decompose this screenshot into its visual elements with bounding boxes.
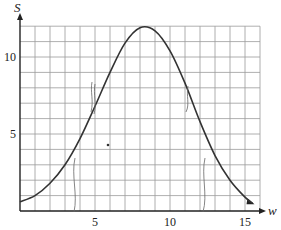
- chart: 51015510 S w: [0, 0, 281, 230]
- grid: [20, 26, 260, 211]
- y-axis-label: S: [14, 0, 21, 15]
- svg-text:15: 15: [239, 215, 251, 229]
- svg-text:5: 5: [92, 215, 98, 229]
- x-axis-label: w: [268, 203, 277, 218]
- axes: [17, 13, 266, 214]
- stray-dot: [107, 144, 110, 147]
- data-curve: [20, 27, 253, 204]
- svg-text:5: 5: [10, 127, 16, 141]
- svg-text:10: 10: [164, 215, 176, 229]
- tick-labels: 51015510: [4, 50, 251, 229]
- svg-text:10: 10: [4, 50, 16, 64]
